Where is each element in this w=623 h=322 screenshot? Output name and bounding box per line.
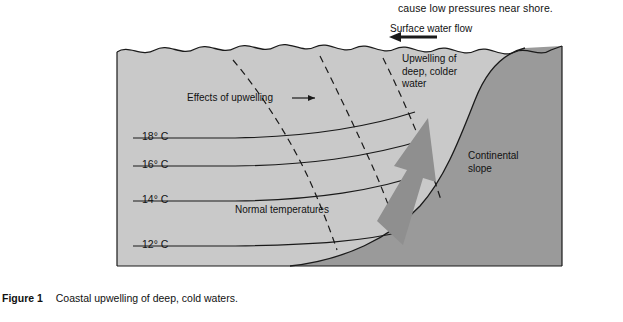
top-partial-sentence: cause low pressures near shore. <box>398 2 553 14</box>
figure-caption-label: Figure 1 <box>2 292 43 304</box>
figure-page: cause low pressures near shore. <box>0 0 623 322</box>
upwelling-diagram: Surface water flow Upwelling of deep, co… <box>115 38 564 278</box>
figure-caption-text: Coastal upwelling of deep, cold waters. <box>56 292 238 304</box>
label-isotherm-12c: 12° C <box>142 238 168 251</box>
label-continental-slope-line-2: slope <box>468 163 519 176</box>
label-upwelling-line-1: Upwelling of <box>402 53 457 66</box>
label-continental-slope: Continental slope <box>468 150 519 175</box>
label-isotherm-16c: 16° C <box>142 158 168 171</box>
label-isotherm-14c: 14° C <box>142 193 168 206</box>
label-surface-water-flow: Surface water flow <box>390 23 472 36</box>
figure-caption: Figure 1 Coastal upwelling of deep, cold… <box>2 292 238 304</box>
label-continental-slope-line-1: Continental <box>468 150 519 163</box>
label-normal-temperatures: Normal temperatures <box>235 204 329 217</box>
label-effects-of-upwelling: Effects of upwelling <box>187 92 273 105</box>
label-upwelling-line-3: water <box>402 78 457 91</box>
label-isotherm-18c: 18° C <box>142 130 168 143</box>
label-upwelling-line-2: deep, colder <box>402 66 457 79</box>
label-upwelling-of-deep-colder-water: Upwelling of deep, colder water <box>402 53 457 91</box>
